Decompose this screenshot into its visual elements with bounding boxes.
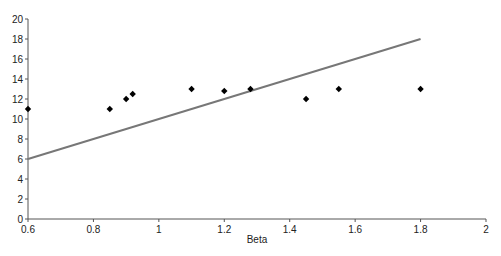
diamond-marker (303, 96, 309, 102)
y-tick-label: 0 (17, 214, 23, 225)
diamond-marker (25, 106, 31, 112)
x-tick-label: 2 (483, 224, 489, 235)
diamond-marker (336, 86, 342, 92)
line-series (28, 39, 421, 159)
diamond-marker (129, 91, 135, 97)
diamond-marker (221, 88, 227, 94)
x-tick-label: 1.8 (414, 224, 428, 235)
y-tick-label: 2 (17, 194, 23, 205)
y-tick-label: 18 (12, 34, 24, 45)
trend-line (28, 39, 421, 159)
y-axis-ticks: 02468101214161820 (12, 14, 28, 225)
x-axis-title: Beta (247, 234, 268, 245)
x-tick-label: 1.4 (283, 224, 297, 235)
x-tick-label: 1.6 (348, 224, 362, 235)
y-tick-label: 6 (17, 154, 23, 165)
y-tick-label: 4 (17, 174, 23, 185)
y-tick-label: 16 (12, 54, 24, 65)
y-tick-label: 8 (17, 134, 23, 145)
y-tick-label: 14 (12, 74, 24, 85)
axes (28, 19, 486, 219)
diamond-marker (107, 106, 113, 112)
y-tick-label: 12 (12, 94, 24, 105)
x-tick-label: 0.6 (21, 224, 35, 235)
y-tick-label: 20 (12, 14, 24, 25)
y-tick-label: 10 (12, 114, 24, 125)
x-tick-label: 0.8 (86, 224, 100, 235)
diamond-marker (188, 86, 194, 92)
scatter-chart: 02468101214161820 0.60.811.21.41.61.82 B… (0, 0, 501, 256)
x-axis-ticks: 0.60.811.21.41.61.82 (21, 219, 489, 235)
x-tick-label: 1.2 (217, 224, 231, 235)
diamond-marker (123, 96, 129, 102)
diamond-marker (417, 86, 423, 92)
x-tick-label: 1 (156, 224, 162, 235)
